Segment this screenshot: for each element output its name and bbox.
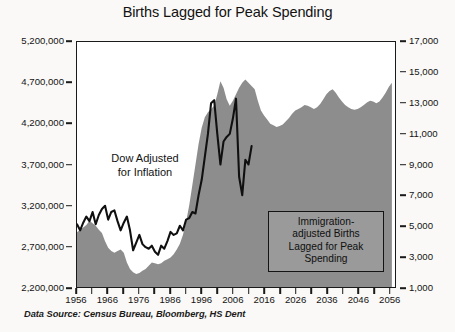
right-axis-tick-mark [400, 195, 406, 197]
x-axis-tick-label: 1966 [97, 295, 118, 305]
x-axis-tick-label: 1976 [128, 295, 149, 305]
right-axis-tick-mark [400, 133, 406, 135]
annotation-births-line-1: Immigration- [272, 216, 380, 228]
right-axis-tick-mark [400, 256, 406, 258]
left-axis-tick-label: 4,700,000 [21, 77, 64, 87]
right-axis-tick-mark [400, 71, 406, 73]
left-axis-tick-mark [66, 205, 72, 207]
right-axis-tick-label: 9,000 [409, 160, 433, 170]
x-axis-tick-label: 1996 [191, 295, 212, 305]
left-axis-tick-mark [66, 287, 72, 289]
x-axis-tick-mark [185, 288, 187, 294]
right-axis-tick-mark [400, 225, 406, 227]
right-axis-tick-label: 1,000 [409, 283, 433, 293]
left-axis-tick-mark [66, 123, 72, 125]
x-axis-tick-label: 2036 [316, 295, 337, 305]
annotation-dow-line-2: for Inflation [86, 165, 204, 179]
right-axis-tick-label: 5,000 [409, 221, 433, 231]
x-axis-tick-mark [154, 288, 156, 294]
left-axis-tick-label: 4,200,000 [21, 119, 64, 129]
annotation-immigration-adjusted-births: Immigration- adjusted Births Lagged for … [268, 211, 384, 272]
x-axis-tick-mark [279, 288, 281, 294]
x-axis-tick-label: 2056 [379, 295, 400, 305]
annotation-births-line-2: adjusted Births [272, 228, 380, 240]
right-axis-tick-mark [400, 102, 406, 104]
source-note: Data Source: Census Bureau, Bloomberg, H… [24, 309, 245, 319]
page-title: Births Lagged for Peak Spending [0, 4, 455, 20]
left-axis-tick-label: 5,200,000 [21, 36, 64, 46]
left-axis-tick-mark [66, 246, 72, 248]
right-axis-tick-label: 3,000 [409, 252, 433, 262]
right-axis-tick-label: 17,000 [409, 36, 438, 46]
annotation-births-line-3: Lagged for Peak [272, 241, 380, 253]
left-axis-tick-label: 2,700,000 [21, 242, 64, 252]
x-axis-tick-label: 2046 [348, 295, 369, 305]
x-axis-tick-label: 2016 [254, 295, 275, 305]
x-axis-labels: 1956196619761986199620062016202620362046… [0, 295, 455, 309]
left-axis-tick-label: 2,200,000 [21, 283, 64, 293]
x-axis-tick-mark [310, 288, 312, 294]
right-axis-tick-label: 13,000 [409, 98, 438, 108]
left-y-axis: 2,200,0002,700,0003,200,0003,700,0004,20… [0, 41, 72, 288]
x-axis-tick-label: 2026 [285, 295, 306, 305]
right-axis-tick-mark [400, 40, 406, 42]
right-axis-tick-label: 15,000 [409, 67, 438, 77]
chart-figure: Births Lagged for Peak Spending 2,200,00… [0, 0, 455, 332]
x-axis-tick-mark [91, 288, 93, 294]
annotation-dow-line-1: Dow Adjusted [86, 151, 204, 165]
annotation-births-line-4: Spending [272, 253, 380, 265]
right-axis-tick-label: 7,000 [409, 191, 433, 201]
right-axis-tick-mark [400, 287, 406, 289]
x-axis-tick-label: 2006 [222, 295, 243, 305]
right-axis-tick-label: 11,000 [409, 129, 438, 139]
left-axis-tick-mark [66, 81, 72, 83]
x-axis-tick-label: 1956 [65, 295, 86, 305]
left-axis-tick-mark [66, 164, 72, 166]
left-axis-tick-label: 3,700,000 [21, 160, 64, 170]
right-y-axis: 1,0003,0005,0007,0009,00011,00013,00015,… [400, 41, 455, 288]
left-axis-tick-mark [66, 40, 72, 42]
x-axis-tick-mark [342, 288, 344, 294]
x-axis-tick-label: 1986 [159, 295, 180, 305]
left-axis-tick-label: 3,200,000 [21, 201, 64, 211]
right-axis-tick-mark [400, 164, 406, 166]
x-axis-tick-mark [122, 288, 124, 294]
x-axis-tick-mark [216, 288, 218, 294]
x-axis-tick-mark [248, 288, 250, 294]
annotation-dow-adjusted-for-inflation: Dow Adjusted for Inflation [86, 151, 204, 179]
x-axis-tick-mark [373, 288, 375, 294]
